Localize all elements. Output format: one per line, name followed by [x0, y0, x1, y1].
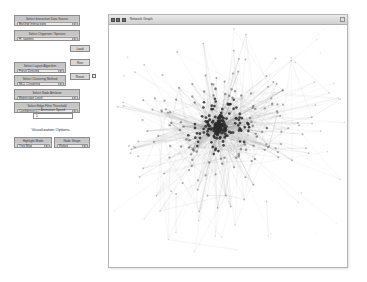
field-label: Highlight Mode [15, 138, 51, 143]
combo-organism-species[interactable]: H. sapiens ▼ [17, 37, 78, 41]
field-label: Select Clustering Method [15, 76, 65, 81]
chevron-down-icon[interactable]: ▼ [58, 70, 63, 73]
field-label: Node Shape [55, 138, 89, 143]
combo-value: BioGrid Interactions [18, 22, 47, 26]
chevron-down-icon[interactable]: ▼ [72, 97, 77, 100]
field-label: Select Organism / Species [15, 31, 79, 36]
visualization-options-heading: Visualization Options [0, 127, 101, 133]
select-icon[interactable] [122, 18, 126, 22]
field-label: Select Layout Algorithm [15, 63, 65, 68]
run-button[interactable]: Run [70, 59, 90, 66]
reset-button[interactable]: Reset [70, 73, 90, 80]
combo-node-shape[interactable]: Rotary ▼ [57, 144, 88, 148]
field-clustering-method[interactable]: Select Clustering Method MCL Clustering … [14, 75, 66, 86]
close-icon[interactable] [340, 17, 346, 23]
animation-speed-input[interactable]: 1 [33, 113, 73, 119]
application-root: Select Interaction Data Source BioGrid I… [0, 0, 367, 282]
field-highlight-mode[interactable]: Highlight Mode Tree Map ▼ [14, 137, 52, 148]
load-button[interactable]: Load [70, 45, 90, 52]
chevron-down-icon[interactable]: ▼ [82, 145, 87, 148]
field-label: Select Interaction Data Source [15, 16, 79, 21]
combo-value: Force Directed [18, 69, 40, 73]
combo-value: H. sapiens [18, 37, 34, 41]
field-layout-algorithm[interactable]: Select Layout Algorithm Force Directed ▼ [14, 62, 66, 73]
combo-layout-algorithm[interactable]: Force Directed ▼ [17, 69, 64, 73]
field-interaction-data-source[interactable]: Select Interaction Data Source BioGrid I… [14, 15, 80, 26]
control-panel: Select Interaction Data Source BioGrid I… [0, 0, 101, 282]
window-title: Network Graph [130, 17, 153, 22]
pan-icon[interactable] [116, 18, 120, 22]
combo-value: MCL Clustering [18, 82, 41, 86]
animation-speed-label: Animation Speed [33, 108, 73, 112]
field-node-attribute[interactable]: Select Node Attribute Expression Level ▼ [14, 89, 80, 100]
chevron-down-icon[interactable]: ▼ [72, 23, 77, 26]
edge-layer [114, 29, 344, 252]
combo-value: Expression Level [18, 96, 43, 100]
combo-node-attribute[interactable]: Expression Level ▼ [17, 96, 78, 100]
network-graph[interactable] [109, 25, 347, 267]
visualization-window: Network Graph [108, 14, 348, 268]
chevron-down-icon[interactable]: ▼ [44, 145, 49, 148]
combo-value: Rotary [58, 144, 69, 148]
window-titlebar[interactable]: Network Graph [109, 15, 347, 25]
field-node-shape[interactable]: Node Shape Rotary ▼ [54, 137, 90, 148]
animation-speed-group: Animation Speed 1 [33, 108, 73, 119]
field-organism-species[interactable]: Select Organism / Species H. sapiens ▼ [14, 30, 80, 41]
auto-update-checkbox[interactable] [92, 74, 96, 78]
zoom-in-icon[interactable] [111, 18, 115, 22]
graph-canvas[interactable] [109, 25, 347, 267]
chevron-down-icon[interactable]: ▼ [72, 38, 77, 41]
combo-highlight-mode[interactable]: Tree Map ▼ [17, 144, 50, 148]
chevron-down-icon[interactable]: ▼ [58, 83, 63, 86]
field-label: Select Node Attribute [15, 90, 79, 95]
combo-value: Tree Map [18, 144, 33, 148]
combo-interaction-data-source[interactable]: BioGrid Interactions ▼ [17, 22, 78, 26]
combo-clustering-method[interactable]: MCL Clustering ▼ [17, 82, 64, 86]
